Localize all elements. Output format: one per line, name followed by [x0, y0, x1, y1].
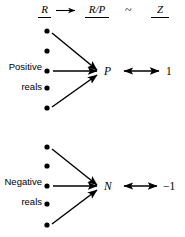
dot — [44, 68, 49, 73]
negative-reals-dots — [44, 144, 49, 227]
diagram-vector-layer — [0, 0, 185, 237]
dot — [44, 105, 49, 110]
dot — [44, 201, 49, 206]
dot — [44, 183, 49, 188]
dot — [44, 144, 49, 149]
coset-mapping-diagram: R R/P ~ Z Positive reals Negative reals … — [0, 0, 185, 237]
dot — [44, 85, 49, 90]
dot — [44, 48, 49, 53]
positive-mapping-arrows — [52, 33, 97, 107]
positive-reals-dots — [44, 28, 49, 110]
dot — [44, 28, 49, 33]
dot — [44, 163, 49, 168]
negative-mapping-arrows — [52, 149, 97, 224]
dot — [44, 222, 49, 227]
